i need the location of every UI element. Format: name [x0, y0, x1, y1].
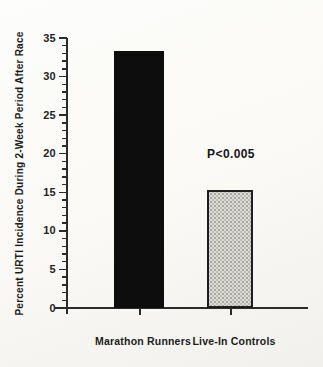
figure-urti-bar-chart: Percent URTI Incidence During 2-Week Per… [0, 0, 323, 367]
y-minor-tick [62, 253, 67, 255]
y-major-tick [59, 230, 67, 232]
y-minor-tick [62, 292, 67, 294]
y-minor-tick [62, 246, 67, 248]
y-minor-tick [62, 300, 67, 302]
y-minor-tick [62, 176, 67, 178]
y-tick-label: 15 [30, 187, 56, 198]
y-minor-tick [62, 45, 67, 47]
y-minor-tick [62, 53, 67, 55]
y-major-tick [59, 269, 67, 271]
y-major-tick [59, 192, 67, 194]
y-minor-tick [62, 145, 67, 147]
y-tick-label: 30 [30, 71, 56, 82]
y-tick-label: 35 [30, 33, 56, 44]
y-major-tick [59, 37, 67, 39]
y-minor-tick [62, 99, 67, 101]
y-axis-title: Percent URTI Incidence During 2-Week Per… [14, 24, 29, 324]
y-major-tick [59, 114, 67, 116]
y-major-tick [59, 153, 67, 155]
y-minor-tick [62, 168, 67, 170]
y-minor-tick [62, 60, 67, 62]
x-category-label-live-in-controls: Live-In Controls [169, 335, 299, 347]
y-minor-tick [62, 222, 67, 224]
y-minor-tick [62, 284, 67, 286]
y-minor-tick [62, 161, 67, 163]
significance-annotation: P<0.005 [194, 147, 268, 161]
x-tick-live-in-controls [230, 309, 232, 315]
bar-marathon-runners [114, 51, 164, 308]
y-minor-tick [62, 207, 67, 209]
y-tick-label: 5 [30, 264, 56, 275]
y-minor-tick [62, 184, 67, 186]
y-minor-tick [62, 130, 67, 132]
y-tick-label: 10 [30, 225, 56, 236]
y-major-tick [59, 307, 67, 309]
x-axis-line [55, 307, 308, 309]
y-tick-label: 25 [30, 110, 56, 121]
x-tick-marathon-runners [139, 309, 141, 315]
y-major-tick [59, 76, 67, 78]
y-tick-label: 0 [30, 303, 56, 314]
y-minor-tick [62, 238, 67, 240]
y-minor-tick [62, 138, 67, 140]
y-minor-tick [62, 68, 67, 70]
y-minor-tick [62, 199, 67, 201]
bar-live-in-controls [207, 190, 253, 308]
y-minor-tick [62, 215, 67, 217]
y-minor-tick [62, 276, 67, 278]
y-minor-tick [62, 261, 67, 263]
y-tick-label: 20 [30, 148, 56, 159]
y-minor-tick [62, 122, 67, 124]
y-minor-tick [62, 91, 67, 93]
y-minor-tick [62, 84, 67, 86]
y-minor-tick [62, 107, 67, 109]
